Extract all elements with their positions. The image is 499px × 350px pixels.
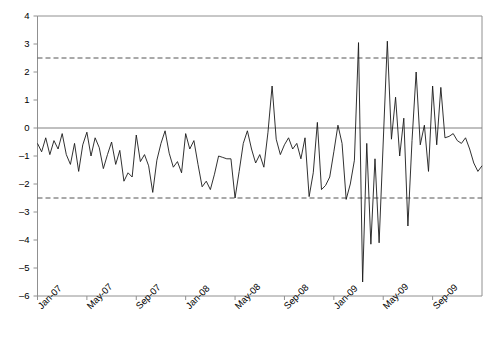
x-axis-tick-labels: Jan-07May-07Sep-07Jan-08May-08Sep-08Jan-… [0, 0, 499, 350]
x-tick-label: Jan-07 [36, 283, 63, 310]
x-tick-label: Sep-07 [134, 282, 162, 310]
x-tick-label: Jan-09 [332, 283, 359, 310]
x-tick-label: Sep-08 [282, 282, 310, 310]
x-tick-label: Sep-09 [431, 282, 459, 310]
control-chart: 43210–1–2–3–4–5–6 Jan-07May-07Sep-07Jan-… [0, 0, 499, 350]
x-tick-label: May-08 [233, 282, 262, 311]
x-tick-label: May-09 [381, 282, 410, 311]
x-tick-label: Jan-08 [184, 283, 211, 310]
x-tick-label: May-07 [85, 282, 114, 311]
